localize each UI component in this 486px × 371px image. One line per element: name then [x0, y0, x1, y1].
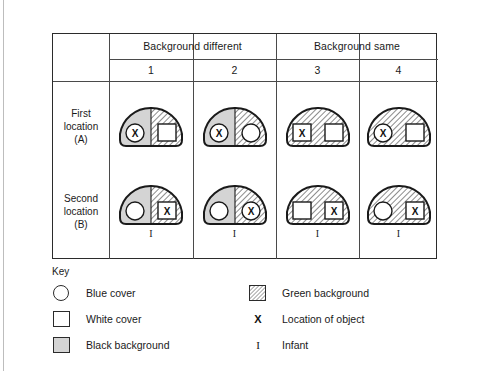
column-header-3: 3: [276, 59, 359, 81]
row-label-first-location: First location (A): [53, 107, 109, 146]
cell-B1: X I: [109, 166, 193, 226]
legend-label-infant: Infant: [282, 334, 308, 356]
row-label-second-line2: location: [53, 205, 109, 218]
legend-label-blue-cover: Blue cover: [86, 282, 136, 304]
header-group-different-label: Background different: [143, 40, 242, 52]
header-group-same: Background same: [276, 34, 438, 59]
dome-svg-B3: X: [280, 166, 356, 226]
row-second-location-cells: X I X I: [109, 166, 438, 259]
dome-B1: X: [113, 166, 189, 226]
legend-item-black-background: Black background: [52, 334, 232, 356]
white-cover-icon: [52, 308, 78, 330]
black-background-icon: [52, 334, 78, 356]
infant-marker-B2: I: [193, 228, 276, 239]
object-mark-A2: X: [215, 128, 222, 139]
legend-item-location-of-object: X Location of object: [248, 308, 438, 330]
dome-svg-B4: X: [361, 166, 437, 226]
dome-svg-A2: X: [197, 88, 273, 148]
row-label-second-location: Second location (B): [53, 192, 109, 231]
legend-title: Key: [52, 266, 69, 277]
legend-label-black-background: Black background: [86, 334, 169, 356]
green-background-icon: [248, 282, 274, 304]
column-header-1: 1: [109, 59, 193, 81]
row-label-first-line2: location: [53, 120, 109, 133]
legend: Key Blue cover White cover Black backgro…: [52, 266, 442, 346]
cell-B2: X I: [193, 166, 276, 226]
infant-icon: I: [248, 334, 274, 356]
dome-svg-B1: X: [113, 166, 189, 226]
object-mark-A4: X: [379, 128, 386, 139]
row-label-first-line1: First: [53, 107, 109, 120]
legend-label-location-of-object: Location of object: [282, 308, 364, 330]
infant-marker-B4: I: [359, 228, 438, 239]
object-mark-B1: X: [164, 206, 171, 217]
infant-marker-B3: I: [276, 228, 359, 239]
legend-item-white-cover: White cover: [52, 308, 232, 330]
experiment-design-table: Background different Background same 1 2…: [52, 33, 437, 259]
dome-A3: X: [280, 88, 356, 148]
page-left-edge: [3, 0, 4, 371]
legend-label-green-background: Green background: [282, 282, 369, 304]
row-label-first-line3: (A): [53, 133, 109, 146]
cell-A3: X: [276, 88, 359, 148]
header-group-different: Background different: [109, 34, 276, 59]
object-mark-A1: X: [132, 128, 139, 139]
cell-A2: X: [193, 88, 276, 148]
row-label-second-line1: Second: [53, 192, 109, 205]
dome-A2: X: [197, 88, 273, 148]
object-mark-B2: X: [247, 206, 254, 217]
cell-B4: X I: [359, 166, 438, 226]
legend-item-green-background: Green background: [248, 282, 438, 304]
dome-B3: X: [280, 166, 356, 226]
dome-A4: X: [361, 88, 437, 148]
infant-marker-B1: I: [109, 228, 193, 239]
dome-svg-B2: X: [197, 166, 273, 226]
cell-A4: X: [359, 88, 438, 148]
cell-B3: X I: [276, 166, 359, 226]
dome-B4: X: [361, 166, 437, 226]
dome-svg-A3: X: [280, 88, 356, 148]
dome-svg-A1: X: [113, 88, 189, 148]
column-header-2: 2: [193, 59, 276, 81]
cell-A1: X: [109, 88, 193, 148]
dome-A1: X: [113, 88, 189, 148]
location-of-object-icon: X: [248, 308, 274, 330]
object-mark-B4: X: [411, 206, 418, 217]
legend-label-white-cover: White cover: [86, 308, 141, 330]
header-group-same-label: Background same: [314, 40, 400, 52]
blue-cover-icon: [52, 282, 78, 304]
object-mark-B3: X: [330, 206, 337, 217]
legend-item-blue-cover: Blue cover: [52, 282, 232, 304]
row-label-second-line3: (B): [53, 218, 109, 231]
dome-B2: X: [197, 166, 273, 226]
column-header-4: 4: [359, 59, 438, 81]
dome-svg-A4: X: [361, 88, 437, 148]
legend-item-infant: I Infant: [248, 334, 438, 356]
object-mark-A3: X: [298, 128, 305, 139]
